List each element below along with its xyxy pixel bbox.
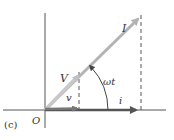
angle-arc [91, 67, 108, 110]
instant-v [45, 109, 77, 110]
label-omega-t: ωt [103, 76, 116, 87]
phasor-diagram: I V ωt v i O (c) [0, 0, 174, 140]
label-I: I [121, 22, 127, 35]
panel-label: (c) [4, 119, 18, 130]
label-v: v [66, 92, 72, 103]
label-origin: O [32, 115, 40, 126]
label-i: i [119, 95, 122, 106]
label-V: V [60, 72, 69, 85]
